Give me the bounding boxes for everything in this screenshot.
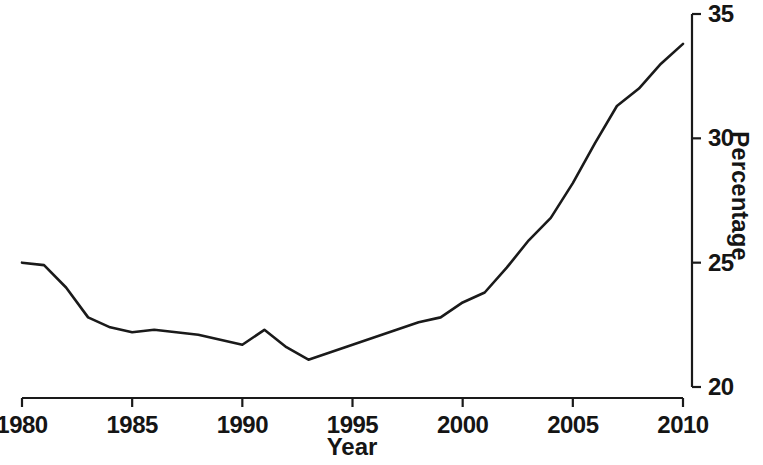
x-axis-tick-label: 1985 xyxy=(106,411,157,439)
x-axis-tick-label: 2005 xyxy=(547,411,598,439)
line-chart-plot xyxy=(0,0,763,465)
chart-figure: 1980198519901995200020052010 20253035 Ye… xyxy=(0,0,763,465)
y-axis-tick-label: 20 xyxy=(708,373,734,401)
x-axis-tick-label: 2000 xyxy=(437,411,488,439)
axes xyxy=(22,14,701,407)
data-line xyxy=(22,44,683,360)
x-axis-tick-label: 2010 xyxy=(657,411,708,439)
x-axis-tick-label: 1980 xyxy=(0,411,48,439)
data-series xyxy=(22,44,683,360)
x-axis-tick-label: 1990 xyxy=(217,411,268,439)
x-axis-title: Year xyxy=(327,433,378,461)
y-axis-tick-label: 35 xyxy=(708,0,734,28)
y-axis-title: Percentage xyxy=(726,131,754,260)
